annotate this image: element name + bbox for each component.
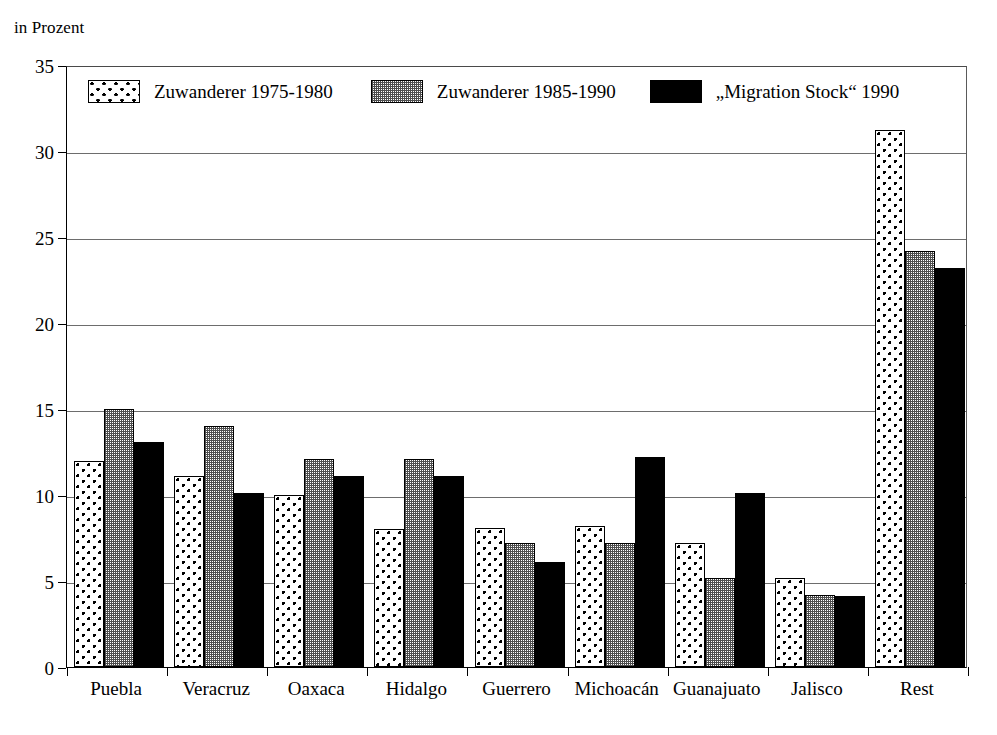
bar (104, 409, 134, 667)
x-axis-tick (267, 667, 268, 676)
x-axis-category-label: Veracruz (182, 679, 250, 698)
y-axis-unit-label: in Prozent (14, 18, 84, 38)
bar (675, 543, 705, 667)
bar (535, 562, 565, 667)
y-axis-tick-label: 25 (35, 229, 54, 248)
gridline (67, 411, 966, 412)
bar (705, 578, 735, 667)
y-axis-tick-label: 20 (35, 315, 54, 334)
x-axis-category-label: Guerrero (482, 679, 551, 698)
x-axis-tick (367, 667, 368, 676)
x-axis-category-label: Rest (900, 679, 934, 698)
bar (304, 459, 334, 667)
y-axis-tick-label: 10 (35, 487, 54, 506)
bar (505, 543, 535, 667)
gridline (67, 153, 966, 154)
bar (434, 476, 464, 667)
y-axis-tick (58, 152, 66, 153)
y-axis-tick-label: 5 (45, 573, 55, 592)
x-axis-tick (167, 667, 168, 676)
y-axis-tick-label: 30 (35, 143, 54, 162)
bar (374, 529, 404, 667)
bar (404, 459, 434, 667)
legend-label-2: „Migration Stock“ 1990 (716, 82, 900, 101)
y-axis-tick (58, 238, 66, 239)
x-axis-tick (568, 667, 569, 676)
bar (74, 461, 104, 667)
bar (134, 442, 164, 667)
x-axis-category-label: Oaxaca (288, 679, 345, 698)
y-axis-tick-label: 15 (35, 401, 54, 420)
gridline (67, 239, 966, 240)
y-axis-tick (58, 66, 66, 67)
chart-legend: Zuwanderer 1975-1980 Zuwanderer 1985-199… (88, 80, 899, 103)
legend-label-1: Zuwanderer 1985-1990 (437, 82, 616, 101)
plot-area (66, 66, 967, 668)
x-axis-tick (67, 667, 68, 676)
bar (174, 476, 204, 667)
bar (234, 493, 264, 667)
y-axis-tick (58, 410, 66, 411)
x-axis-tick (467, 667, 468, 676)
bar (935, 268, 965, 667)
bar (274, 495, 304, 667)
legend-entry-1: Zuwanderer 1985-1990 (371, 80, 616, 103)
y-axis-tick (58, 324, 66, 325)
bar (805, 595, 835, 667)
x-axis-category-label: Michoacán (574, 679, 658, 698)
y-axis-tick (58, 668, 66, 669)
x-axis-tick (968, 667, 969, 676)
legend-label-0: Zuwanderer 1975-1980 (154, 82, 333, 101)
legend-swatch-black-icon (650, 80, 702, 103)
y-axis-tick (58, 582, 66, 583)
legend-swatch-gray-icon (371, 80, 423, 103)
x-axis-tick (668, 667, 669, 676)
legend-swatch-dotted-icon (88, 80, 140, 103)
bar (905, 251, 935, 667)
bar (735, 493, 765, 667)
x-axis-category-label: Puebla (90, 679, 142, 698)
gridline (67, 325, 966, 326)
bar (635, 457, 665, 667)
legend-entry-0: Zuwanderer 1975-1980 (88, 80, 333, 103)
legend-entry-2: „Migration Stock“ 1990 (650, 80, 900, 103)
bar (475, 528, 505, 667)
bar (875, 130, 905, 667)
bar (334, 476, 364, 667)
bar (204, 426, 234, 667)
bar (605, 543, 635, 667)
bar (835, 596, 865, 667)
x-axis-tick (768, 667, 769, 676)
bar (775, 578, 805, 667)
y-axis-tick (58, 496, 66, 497)
x-axis-category-label: Jalisco (791, 679, 843, 698)
y-axis-tick-label: 0 (45, 659, 55, 678)
x-axis-category-label: Guanajuato (673, 679, 761, 698)
bar-chart: in Prozent 05101520253035 PueblaVeracruz… (0, 0, 997, 735)
x-axis-tick (868, 667, 869, 676)
bar (575, 526, 605, 667)
x-axis-category-label: Hidalgo (386, 679, 447, 698)
y-axis-tick-label: 35 (35, 57, 54, 76)
